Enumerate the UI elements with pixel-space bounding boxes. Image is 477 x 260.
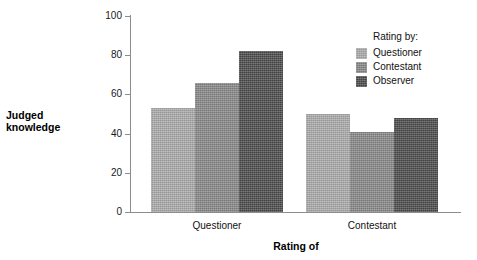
bar: [306, 114, 350, 212]
y-axis-tick-label-text: 20: [96, 168, 122, 178]
y-axis-tick-label: 100: [96, 11, 122, 21]
y-axis-tick-label-text: 40: [96, 129, 122, 139]
y-axis-tick-label-text: 80: [96, 50, 122, 60]
y-axis-tick-label-text: 100: [96, 11, 122, 21]
bar: [151, 108, 195, 212]
legend-entry-label: Contestant: [373, 62, 421, 72]
legend-entry-label: Observer: [373, 76, 414, 86]
bar-chart-figure: Judged knowledge 100806040200 Questioner…: [0, 0, 477, 260]
y-axis-tick-mark: [125, 212, 131, 213]
bar: [239, 51, 283, 212]
legend-entry: Contestant: [356, 60, 468, 74]
legend-entries: QuestionerContestantObserver: [356, 46, 468, 88]
legend-entry-label: Questioner: [373, 48, 422, 58]
y-axis-tick-label: 20: [96, 168, 122, 178]
bar: [195, 83, 239, 212]
x-axis-title: Rating of: [131, 240, 461, 252]
legend-entry: Questioner: [356, 46, 468, 60]
x-axis-group-label: Contestant: [312, 220, 432, 231]
y-axis-tick-label: 40: [96, 129, 122, 139]
y-axis-tick-label-text: 60: [96, 89, 122, 99]
legend-entry: Observer: [356, 74, 468, 88]
legend: Rating by: QuestionerContestantObserver: [356, 31, 468, 88]
y-axis-tick-label: 60: [96, 89, 122, 99]
y-axis-tick-label-text: 0: [96, 207, 122, 217]
legend-swatch-icon: [356, 76, 367, 87]
legend-swatch-icon: [356, 62, 367, 73]
y-axis-tick-label: 0: [96, 207, 122, 217]
bar: [350, 132, 394, 212]
bar: [394, 118, 438, 212]
y-axis-title: Judged knowledge: [6, 109, 98, 133]
x-axis-line: [131, 212, 461, 213]
legend-title: Rating by:: [373, 31, 468, 42]
x-axis-group-label: Questioner: [157, 220, 277, 231]
legend-swatch-icon: [356, 48, 367, 59]
y-axis-tick-label: 80: [96, 50, 122, 60]
